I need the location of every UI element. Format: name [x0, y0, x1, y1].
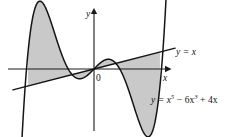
line-equation-label: y = x	[176, 48, 196, 58]
origin-label: 0	[96, 73, 101, 83]
curve-eq-part-lhs: y = x	[151, 95, 171, 105]
figure-container: y x 0 y = x y = x5 − 6x3 + 4x	[0, 0, 236, 137]
x-axis-arrow-icon	[165, 66, 172, 72]
y-axis-label: y	[85, 9, 91, 19]
x-axis-label: x	[162, 73, 168, 83]
curve-equation-label: y = x5 − 6x3 + 4x	[151, 96, 218, 106]
y-axis-arrow-icon	[91, 8, 97, 14]
curve-eq-part-tail: + 4x	[198, 95, 218, 105]
curve-eq-part-mid: − 6x	[174, 95, 194, 105]
shaded-region-left	[28, 1, 94, 86]
quintic-vs-line-plot: y x 0	[0, 0, 236, 137]
